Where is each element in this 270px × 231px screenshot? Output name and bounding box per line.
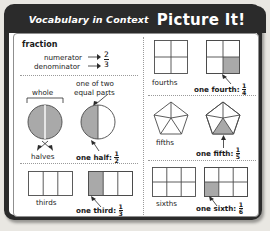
- divider-fraction: [20, 75, 138, 76]
- sixths-label: sixths: [156, 199, 177, 208]
- one-sixth-answer: one sixth: 1 6: [196, 202, 243, 216]
- header-band: Vocabulary in Context Picture It!: [8, 6, 266, 33]
- one-sixth-answer-text: one sixth:: [196, 204, 236, 213]
- one-fourth-grid-diagram: [206, 40, 240, 74]
- one-sixth-grid-diagram: [204, 167, 248, 197]
- numerator-label: numerator: [44, 53, 82, 62]
- numerator-arrow-icon: [88, 55, 102, 69]
- section-title-fraction: fraction: [22, 40, 57, 49]
- one-third-answer-text: one third:: [76, 206, 116, 215]
- one-sixth-fraction: 1 6: [239, 202, 243, 216]
- one-fifth-fraction: 1 5: [236, 147, 240, 161]
- content-card: fraction numerator denominator 2 3 one o…: [13, 33, 259, 217]
- one-third-denominator: 3: [119, 210, 123, 218]
- whole-label: whole: [32, 88, 53, 97]
- page-title: Picture It!: [157, 11, 246, 29]
- fifths-label: fifths: [156, 138, 174, 147]
- one-half-answer-text: one half:: [76, 153, 112, 162]
- whole-circle-diagram: [26, 103, 64, 141]
- fourths-grid-diagram: [154, 40, 188, 74]
- header-kicker: Vocabulary in Context: [29, 14, 149, 25]
- right-column: fourths one fourth: 1 4: [144, 34, 260, 218]
- divider-fifths: [148, 160, 256, 161]
- one-fourth-answer-text: one fourth:: [194, 85, 240, 94]
- denominator-label: denominator: [34, 62, 80, 71]
- poster-frame: Vocabulary in Context Picture It! fracti…: [4, 4, 262, 220]
- one-third-answer: one third: 1 3: [76, 204, 123, 218]
- thirds-bar-diagram: [28, 171, 73, 196]
- denominator-value: 3: [104, 59, 109, 69]
- one-fifth-pentagon-diagram: [204, 100, 242, 136]
- halves-callout-line1: one of two: [76, 79, 114, 88]
- one-sixth-denominator: 6: [239, 208, 243, 216]
- halves-arrows-icon: [26, 141, 64, 152]
- one-third-fraction: 1 3: [119, 204, 123, 218]
- sixths-grid-diagram: [152, 167, 196, 197]
- fraction-example-value: 2 3: [104, 51, 109, 69]
- one-fifth-answer: one fifth: 1 5: [196, 147, 240, 161]
- halves-label: halves: [31, 152, 54, 161]
- divider-halves: [20, 163, 138, 164]
- one-third-bar-diagram: [88, 171, 133, 196]
- fifths-pentagon-diagram: [152, 100, 190, 136]
- numerator-value: 2: [104, 51, 109, 59]
- fourths-label: fourths: [152, 78, 178, 87]
- poster: Vocabulary in Context Picture It! fracti…: [4, 4, 266, 227]
- one-fifth-answer-text: one fifth:: [196, 149, 233, 158]
- left-column: fraction numerator denominator 2 3 one o…: [14, 34, 143, 218]
- thirds-label: thirds: [36, 198, 57, 207]
- one-half-circle-diagram: [80, 104, 116, 140]
- divider-fourths: [148, 95, 256, 96]
